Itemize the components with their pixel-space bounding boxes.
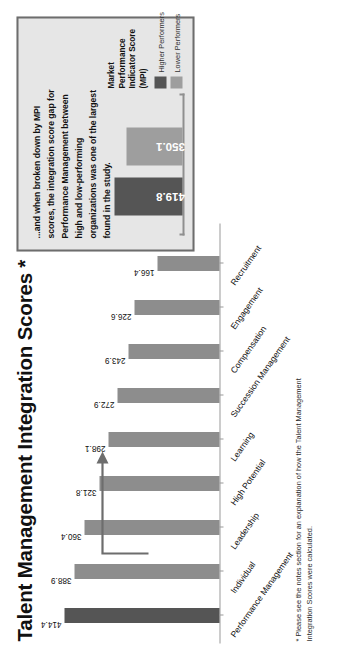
- bar-group: 243.9: [47, 329, 219, 373]
- x-axis-tick: [219, 306, 223, 307]
- category-label: Succession Management: [228, 377, 261, 419]
- bar-group: 360.4: [47, 505, 219, 549]
- inset-body-text: ...and when broken down by MPI scores, t…: [30, 88, 114, 238]
- bar-group: 388.9: [47, 549, 219, 593]
- inset-bar-value-label: 419.8: [156, 190, 185, 202]
- bar-value-label: 166.4: [133, 267, 154, 276]
- inset-bar-value-label: 350.1: [156, 140, 185, 152]
- bar-group: 272.9: [47, 373, 219, 417]
- bar-group: 226.6: [47, 285, 219, 329]
- category-label: High Potential: [228, 465, 261, 507]
- bar-value-label: 243.9: [104, 355, 125, 364]
- bar: [134, 300, 219, 315]
- bar-value-label: 321.8: [75, 487, 96, 496]
- inset-bar-chart: 419.8350.1: [104, 89, 184, 239]
- category-label: Individual: [228, 553, 261, 595]
- bar-group: 414.4: [47, 593, 219, 637]
- bar-value-label: 414.4: [41, 619, 62, 628]
- bar-value-label: 272.9: [93, 399, 114, 408]
- bar: [64, 608, 219, 623]
- category-label: Learning: [228, 421, 261, 463]
- category-label: Performance Management: [228, 597, 261, 639]
- bar: [128, 344, 219, 359]
- category-label: Recruitment: [228, 245, 261, 287]
- x-axis-tick: [219, 262, 223, 263]
- inset-bar-high: 419.8: [114, 177, 182, 215]
- legend-item-higher-performers: Higher Performers: [154, 26, 166, 88]
- bar: [108, 432, 219, 447]
- x-axis-tick: [219, 614, 223, 615]
- bar-value-label: 226.6: [111, 311, 132, 320]
- bar-group: 298.1: [47, 417, 219, 461]
- inset-bar-low: 350.1: [126, 127, 182, 165]
- footnote-text: * Please see the notes section for an ex…: [292, 341, 315, 641]
- bar-group: 321.8: [47, 461, 219, 505]
- page-title: Talent Management Integration Scores *: [12, 259, 36, 641]
- category-label: Leadership: [228, 509, 261, 551]
- bar-value-label: 360.4: [61, 531, 82, 540]
- bar: [84, 520, 219, 535]
- inset-legend: Market Performance Indicator Score (MPI)…: [106, 26, 182, 88]
- legend-swatch-lower-performers: [170, 76, 182, 88]
- legend-title: Market Performance Indicator Score (MPI): [106, 26, 149, 88]
- bar-value-label: 298.1: [84, 443, 105, 452]
- x-axis-tick: [219, 570, 223, 571]
- bar: [99, 476, 219, 491]
- main-chart-plot-area: 414.4388.9360.4321.8298.1272.9243.9226.6…: [48, 223, 220, 643]
- legend-item-lower-performers: Lower Performers: [170, 26, 182, 88]
- bar: [157, 256, 219, 271]
- poster-canvas: Talent Management Integration Scores * 4…: [0, 0, 343, 655]
- category-label: Engagement: [228, 289, 261, 331]
- legend-swatch-higher-performers: [154, 76, 166, 88]
- bar-value-label: 388.9: [50, 575, 71, 584]
- main-bar-chart: 414.4388.9360.4321.8298.1272.9243.9226.6…: [48, 223, 276, 643]
- x-axis-tick: [219, 482, 223, 483]
- x-axis-tick: [219, 350, 223, 351]
- legend-label-higher-performers: Higher Performers: [156, 12, 165, 72]
- bar: [74, 564, 219, 579]
- inset-callout-panel: ...and when broken down by MPI scores, t…: [16, 16, 194, 251]
- bar: [117, 388, 219, 403]
- x-axis-tick: [219, 394, 223, 395]
- legend-label-lower-performers: Lower Performers: [172, 13, 181, 72]
- x-axis-tick: [219, 438, 223, 439]
- x-axis-tick: [219, 526, 223, 527]
- category-label: Compensation: [228, 333, 261, 375]
